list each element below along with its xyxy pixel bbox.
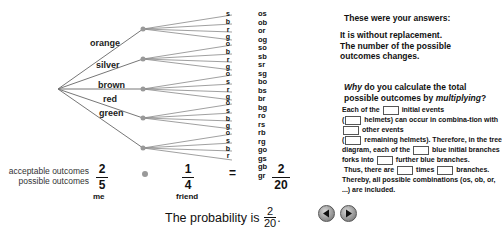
probability-denominator: 20: [264, 218, 276, 229]
blank-times-first[interactable]: [397, 166, 413, 175]
label-me: me: [93, 192, 105, 201]
fraction-denominator: 4: [182, 179, 194, 192]
leaf-label: s: [223, 137, 233, 145]
arrow-left-icon: [322, 209, 331, 218]
probability-suffix: .: [277, 211, 280, 225]
label-friend: friend: [176, 192, 198, 201]
explanation-text-part: Thus, there are: [344, 166, 394, 173]
fraction-numerator: 2: [96, 163, 108, 176]
possible-outcomes-label: possible outcomes: [0, 176, 89, 186]
probability-prefix: The probability is: [165, 211, 260, 225]
explanation-text-part: branches.: [456, 166, 489, 173]
combinations-list: os ob or og so sb sr sg bo bs br bg ro r…: [258, 10, 274, 180]
question-why: Why: [344, 82, 362, 92]
fraction-result: 2 20: [272, 163, 290, 192]
answers-heading: These were your answers:: [344, 13, 450, 23]
explanation-text-part: further blue branches.: [396, 156, 470, 163]
explanation-text: Each of the initial events ( helmets) ca…: [342, 105, 502, 195]
leaf-label: o: [223, 99, 233, 107]
back-button[interactable]: [318, 205, 335, 222]
answer-line-2: The number of the possible outcomes chan…: [340, 41, 490, 62]
explanation-text-part: (: [342, 116, 344, 123]
blank-initial-events[interactable]: [383, 106, 399, 115]
blank-blue-initial-branches[interactable]: [413, 146, 429, 155]
outcome-labels: acceptable outcomes possible outcomes: [0, 166, 89, 186]
leaf-label: o: [223, 129, 233, 137]
forward-button[interactable]: [340, 205, 357, 222]
blank-remaining-helmets[interactable]: [345, 136, 361, 145]
branch-label-orange: orange: [90, 38, 120, 48]
blank-other-events[interactable]: [343, 126, 359, 135]
branch-label-red: red: [103, 94, 117, 104]
blank-times-second[interactable]: [437, 166, 453, 175]
fraction-me: 2 5: [96, 163, 108, 192]
explanation-text-part: times: [416, 166, 434, 173]
explanation-text-part: Each of the: [342, 106, 380, 113]
leaf-label: o: [223, 40, 233, 48]
leaf-label: s: [223, 78, 233, 86]
question-end: ?: [481, 93, 486, 103]
fraction-denominator: 20: [272, 179, 290, 192]
answers-text: It is without replacement. The number of…: [340, 30, 490, 62]
explanation-text-part: other events: [362, 126, 404, 133]
equals-sign: =: [229, 166, 236, 180]
explanation-text-part: helmets) can occur in combina-tion with: [364, 116, 498, 123]
branch-label-silver: silver: [96, 60, 120, 70]
question-multiplying: multiplying: [436, 93, 481, 103]
branch-label-green: green: [99, 108, 124, 118]
fraction-numerator: 1: [182, 163, 194, 176]
fraction-friend: 1 4: [182, 163, 194, 192]
acceptable-outcomes-label: acceptable outcomes: [0, 166, 89, 176]
explanation-text-part: (: [342, 136, 344, 143]
leaf-label: o: [223, 70, 233, 78]
answer-line-1: It is without replacement.: [340, 30, 490, 41]
leaf-label: s: [223, 107, 233, 115]
leaf-label: s: [223, 10, 233, 18]
branch-label-brown: brown: [98, 80, 125, 90]
fraction-denominator: 5: [96, 179, 108, 192]
tree-diagram: [0, 0, 260, 170]
multiply-dot-icon: [142, 171, 148, 177]
blank-helmets[interactable]: [345, 116, 361, 125]
blank-further-branches[interactable]: [377, 156, 393, 165]
leaf-label: r: [223, 152, 233, 160]
explanation-text-part: initial events: [402, 106, 444, 113]
probability-fraction: 2 20: [264, 206, 276, 229]
explanation-text-part: Thereby, all possible combinations (os, …: [342, 176, 496, 193]
leaf-label: b: [223, 48, 233, 56]
probability-numerator: 2: [264, 206, 276, 217]
probability-statement: The probability is 2 20 .: [165, 206, 281, 229]
question-text: Why do you calculate the total possible …: [344, 82, 494, 104]
fraction-numerator: 2: [272, 163, 290, 176]
arrow-right-icon: [344, 209, 353, 218]
leaf-label: b: [223, 18, 233, 26]
